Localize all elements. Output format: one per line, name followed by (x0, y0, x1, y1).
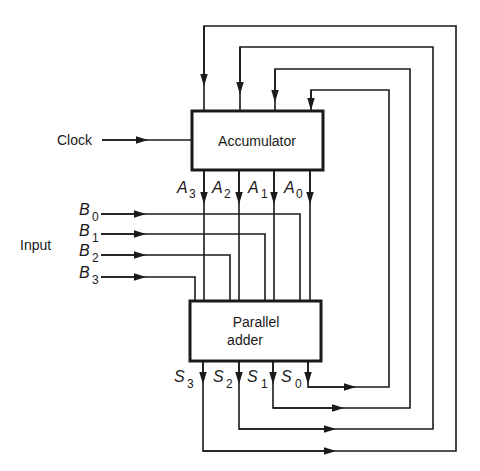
svg-text:0: 0 (296, 187, 303, 201)
svg-text:3: 3 (92, 273, 99, 287)
svg-text:3: 3 (189, 187, 196, 201)
feedback-loop-s2-to-a2 (239, 47, 433, 429)
input-label: Input (20, 237, 51, 253)
b-input-lines (101, 214, 300, 301)
svg-text:S: S (247, 368, 258, 385)
svg-text:B: B (79, 264, 90, 281)
svg-text:2: 2 (224, 187, 231, 201)
accumulator-label: Accumulator (218, 133, 296, 149)
parallel-adder-label-2: adder (227, 332, 263, 348)
svg-text:A: A (283, 179, 295, 196)
svg-text:1: 1 (92, 231, 99, 245)
b-labels: B 0 B 1 B 2 B 3 (79, 201, 99, 287)
svg-text:S: S (174, 368, 185, 385)
svg-text:2: 2 (92, 251, 99, 265)
parallel-adder-label-1: Parallel (233, 314, 280, 330)
svg-text:B: B (79, 222, 90, 239)
svg-text:B: B (79, 242, 90, 259)
svg-text:B: B (79, 201, 90, 218)
s-labels: S 3 S 2 S 1 S 0 (174, 368, 302, 391)
svg-text:1: 1 (261, 187, 268, 201)
clock-label: Clock (57, 132, 93, 148)
svg-text:1: 1 (261, 377, 268, 391)
accumulator-block: Accumulator (192, 111, 323, 170)
svg-text:A: A (211, 179, 223, 196)
svg-text:0: 0 (295, 377, 302, 391)
parallel-adder-block: Parallel adder (190, 301, 321, 361)
accumulator-adder-diagram: Accumulator Parallel adder Clock Input A… (0, 0, 480, 471)
svg-text:S: S (281, 368, 292, 385)
svg-text:A: A (176, 179, 188, 196)
svg-text:3: 3 (187, 377, 194, 391)
svg-text:A: A (247, 179, 259, 196)
svg-text:2: 2 (226, 377, 233, 391)
svg-text:S: S (213, 368, 224, 385)
svg-text:0: 0 (92, 210, 99, 224)
